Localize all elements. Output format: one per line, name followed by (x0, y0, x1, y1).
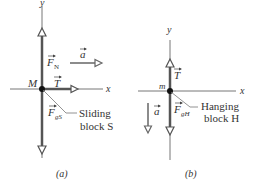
svg-text:gS: gS (55, 113, 63, 121)
caption-b: (b) (185, 168, 197, 180)
tension-label-a: T (54, 76, 62, 90)
y-axis-label-a: y (39, 0, 45, 8)
panel-a: y x M F N a T (10, 0, 113, 180)
tension-arrowhead-a (71, 86, 78, 93)
svg-text:gH: gH (181, 110, 191, 118)
normal-force-arrowhead (38, 28, 46, 36)
acceleration-arrowhead-b (145, 126, 152, 133)
svg-text:T: T (54, 77, 61, 89)
panel-b: y x m T a F gH (138, 24, 245, 180)
point-label-M: M (27, 77, 38, 89)
gravity-force-label-b: F gH (173, 102, 191, 119)
acceleration-arrowhead-a (95, 60, 102, 67)
y-axis-label-b: y (166, 24, 172, 35)
x-axis-label-b: x (239, 85, 245, 96)
point-label-m: m (159, 81, 166, 91)
acceleration-label-a: a (80, 48, 87, 61)
svg-text:N: N (54, 63, 59, 71)
svg-text:T: T (174, 69, 181, 81)
svg-text:F: F (46, 56, 54, 68)
block-label-hanging-line1: Hanging (201, 100, 239, 112)
gravity-force-arrowhead-a (38, 146, 46, 154)
svg-text:F: F (47, 106, 55, 118)
block-label-sliding-line2: block S (80, 120, 113, 132)
acceleration-label-b: a (154, 105, 161, 118)
block-label-sliding-line1: Sliding (79, 107, 111, 119)
gravity-force-arrowhead-b (166, 127, 174, 135)
x-axis-label-a: x (105, 83, 111, 94)
free-body-diagrams: y x M F N a T (0, 0, 268, 185)
block-label-hanging-line2: block H (204, 112, 239, 124)
tension-label-b: T (174, 68, 182, 82)
caption-a: (a) (56, 168, 68, 180)
tension-arrowhead-b (166, 59, 174, 67)
normal-force-label: F N (46, 55, 59, 72)
svg-text:F: F (173, 103, 181, 115)
